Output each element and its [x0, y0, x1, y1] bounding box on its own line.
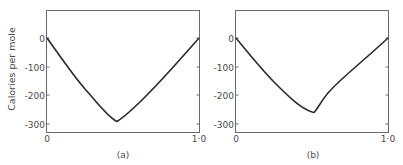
panel-a-ytick-0: 0 — [39, 34, 45, 44]
panel-a-ytick-300: -300 — [25, 120, 46, 130]
figure: Calories per mole 0 -100 -200 -300 0 1·0… — [0, 0, 403, 165]
panel-a: 0 -100 -200 -300 0 1·0 (a) — [25, 11, 207, 161]
panel-a-xtick-1: 1·0 — [192, 134, 207, 144]
panel-b-ytick-0: 0 — [228, 34, 234, 44]
panel-b-ytick-300: -300 — [214, 120, 235, 130]
panel-b-ytick-200: -200 — [214, 91, 235, 101]
panel-a-frame — [47, 11, 200, 133]
panel-b-xtick-0: 0 — [233, 134, 239, 144]
panel-a-xtick-0: 0 — [44, 134, 50, 144]
panel-b: 0 -100 -200 -300 0 1·0 (b) — [214, 11, 396, 161]
panel-b-frame — [236, 11, 389, 133]
panel-b-label: (b) — [307, 150, 320, 160]
panel-a-label: (a) — [117, 150, 130, 160]
panel-a-ytick-200: -200 — [25, 91, 46, 101]
panel-a-ytick-100: -100 — [25, 63, 46, 73]
panel-b-xtick-1: 1·0 — [381, 134, 396, 144]
panel-b-ytick-100: -100 — [214, 63, 235, 73]
panel-b-curve — [236, 38, 388, 113]
panel-a-curve — [47, 38, 199, 122]
y-axis-label: Calories per mole — [6, 27, 17, 111]
